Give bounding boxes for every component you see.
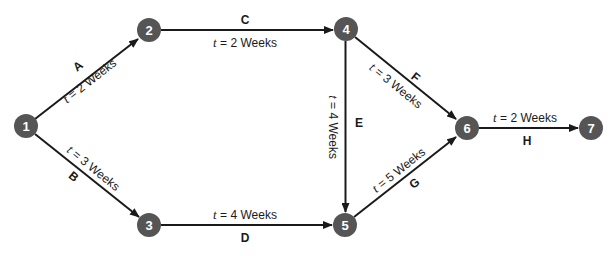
edge-g-arrow [354, 137, 456, 217]
node-6: 6 [455, 116, 479, 140]
time-label-h: t = 2 Weeks [493, 110, 557, 125]
time-label-b: t = 3 Weeks [64, 142, 123, 194]
activity-label-g: G [406, 175, 422, 192]
node-label: 2 [145, 23, 152, 38]
time-label-c: t = 2 Weeks [213, 35, 277, 50]
node-4: 4 [334, 17, 358, 41]
node-1: 1 [14, 114, 38, 138]
activity-label-c: C [241, 13, 250, 27]
time-label-f: t = 3 Weeks [367, 59, 426, 111]
time-value: = 2 Weeks [217, 36, 277, 50]
edges [35, 30, 578, 225]
edge-b-arrow [35, 134, 139, 217]
node-label: 5 [341, 218, 348, 233]
node-5: 5 [333, 213, 357, 237]
time-label-d: t = 4 Weeks [213, 207, 277, 222]
time-label-a: t = 2 Weeks [59, 55, 118, 106]
time-label-e: t = 4 Weeks [326, 95, 341, 159]
time-value: = 2 Weeks [497, 111, 557, 125]
activity-label-h: H [523, 134, 532, 148]
node-label: 4 [342, 22, 350, 37]
network-diagram: A t = 2 Weeks t = 3 Weeks B C t = 2 Week… [0, 0, 610, 256]
node-label: 3 [145, 218, 152, 233]
edge-f-arrow [355, 37, 456, 119]
node-3: 3 [137, 213, 161, 237]
node-2: 2 [137, 18, 161, 42]
node-label: 1 [22, 119, 29, 134]
time-value: = 4 Weeks [326, 99, 340, 159]
node-label: 6 [463, 121, 470, 136]
activity-label-e: E [355, 116, 363, 130]
time-value: = 4 Weeks [217, 208, 277, 222]
activity-label-a: A [70, 58, 86, 75]
node-7: 7 [579, 116, 603, 140]
activity-label-d: D [241, 231, 250, 245]
node-label: 7 [587, 121, 594, 136]
activity-label-b: B [66, 169, 82, 186]
